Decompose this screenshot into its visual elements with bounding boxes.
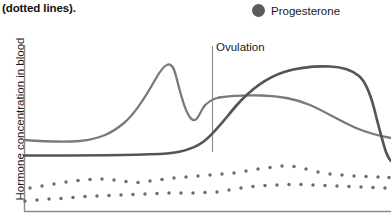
lower-dotted-series <box>23 183 386 203</box>
estrogen-luteal-curve <box>219 95 391 138</box>
estrogen-curve <box>24 64 219 141</box>
progesterone-curve <box>24 66 391 161</box>
chart-plot-area <box>0 0 391 219</box>
hormone-cycle-figure: and progesterone (dotted lines). Progest… <box>0 0 391 219</box>
